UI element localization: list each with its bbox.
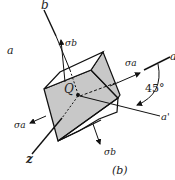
- b-axis-label: b: [41, 0, 49, 12]
- a-axis-label: a: [7, 44, 14, 57]
- sigma-b-down-label: σb: [104, 147, 116, 157]
- sigma-a-left-label: σa: [14, 120, 26, 130]
- b-axis: [44, 10, 56, 36]
- z-axis-label: z: [25, 152, 34, 166]
- sigma-b-down-arrow: [93, 124, 100, 144]
- sigma-b-up-label: σb: [65, 38, 77, 48]
- figure-caption: (b): [112, 164, 128, 177]
- sigma-a-right-label: σa: [125, 58, 137, 68]
- a-axis-right-label: a: [170, 50, 175, 63]
- stress-element-diagram: b a a a' z Q σa σa σb σb 45° (b): [0, 0, 175, 180]
- sigma-a-left-arrow: [30, 116, 46, 123]
- angle-label: 45°: [145, 82, 165, 95]
- point-q-label: Q: [64, 82, 74, 96]
- point-q-dot: [76, 93, 80, 97]
- a-prime-axis-label: a': [161, 111, 170, 122]
